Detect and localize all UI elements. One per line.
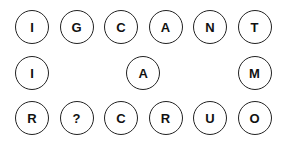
letter-tile[interactable]: R [15, 101, 49, 135]
letter-tile[interactable]: C [104, 10, 138, 44]
letter-tile[interactable]: I [15, 56, 49, 90]
letter-tile[interactable]: M [238, 56, 272, 90]
letter-tile[interactable]: A [126, 56, 160, 90]
letter-tile[interactable]: A [149, 10, 183, 44]
letter-tile[interactable]: R [149, 101, 183, 135]
letter-tile[interactable]: G [60, 10, 94, 44]
letter-tile[interactable]: N [193, 10, 227, 44]
letter-tile[interactable]: T [238, 10, 272, 44]
letter-tile[interactable]: I [15, 10, 49, 44]
letter-tile[interactable]: O [238, 101, 272, 135]
letter-tile[interactable]: U [193, 101, 227, 135]
letter-tile[interactable]: C [104, 101, 138, 135]
missing-letter-tile[interactable]: ? [60, 101, 94, 135]
